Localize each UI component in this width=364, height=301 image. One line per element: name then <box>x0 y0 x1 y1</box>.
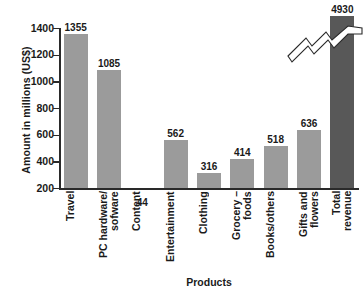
y-axis-tickmark <box>53 108 60 109</box>
x-axis-title: Products <box>59 276 359 288</box>
y-axis-tick-800: 800 <box>20 103 54 114</box>
y-axis-tickmark <box>53 161 60 162</box>
bar-value-label: 1355 <box>56 23 96 33</box>
bar-value-label: 518 <box>256 135 296 145</box>
bar-value-label: 636 <box>289 119 329 129</box>
x-axis-category-labels: TravelPC hardware/ sofwareContentEnterta… <box>59 191 359 273</box>
y-axis-tick-400: 400 <box>20 156 54 167</box>
x-axis-label-pc-hardware-sofware: PC hardware/ sofware <box>98 191 120 273</box>
y-axis-tick-600: 600 <box>20 129 54 140</box>
x-axis-label-entertainment: Entertainment <box>165 191 187 273</box>
x-axis-label-travel: Travel <box>65 191 87 273</box>
bar-entertainment[interactable] <box>164 140 188 188</box>
bar-value-label: 562 <box>156 129 196 139</box>
x-axis-line <box>59 188 359 190</box>
bar-total-revenue[interactable] <box>330 16 354 188</box>
x-axis-label-grocery-foods: Grocery – foods <box>231 191 253 273</box>
bar-pc-hardware-sofware[interactable] <box>97 70 121 188</box>
bar-grocery-foods[interactable] <box>230 159 254 188</box>
y-axis-tickmark <box>53 135 60 136</box>
x-axis-label-clothing: Clothing <box>198 191 220 273</box>
x-axis-label-books-others: Books/others <box>265 191 287 273</box>
y-axis-tick-1200: 1200 <box>20 49 54 60</box>
y-axis-tickmark <box>53 188 60 189</box>
bar-travel[interactable] <box>64 34 88 188</box>
bar-gifts-and-flowers[interactable] <box>297 130 321 188</box>
bar-value-label: 4930 <box>322 5 362 15</box>
bar-books-others[interactable] <box>264 146 288 188</box>
bar-clothing[interactable] <box>197 173 221 188</box>
y-axis-tickmark <box>53 81 60 82</box>
bar-value-label: 414 <box>222 148 262 158</box>
y-axis-tick-labels: 200400600800100012001400 <box>20 0 54 301</box>
y-axis-tick-1000: 1000 <box>20 76 54 87</box>
x-axis-label-total-revenue: Total revenue <box>331 191 353 273</box>
bar-chart: Amount in millions (US$) 200400600800100… <box>0 0 364 301</box>
y-axis-tickmark <box>53 55 60 56</box>
y-axis-tick-200: 200 <box>20 183 54 194</box>
bar-value-label: 44 <box>122 198 162 208</box>
bar-value-label: 316 <box>189 162 229 172</box>
bar-value-label: 1085 <box>89 59 129 69</box>
y-axis-tick-1400: 1400 <box>20 23 54 34</box>
x-axis-label-gifts-and-flowers: Gifts and flowers <box>298 191 320 273</box>
